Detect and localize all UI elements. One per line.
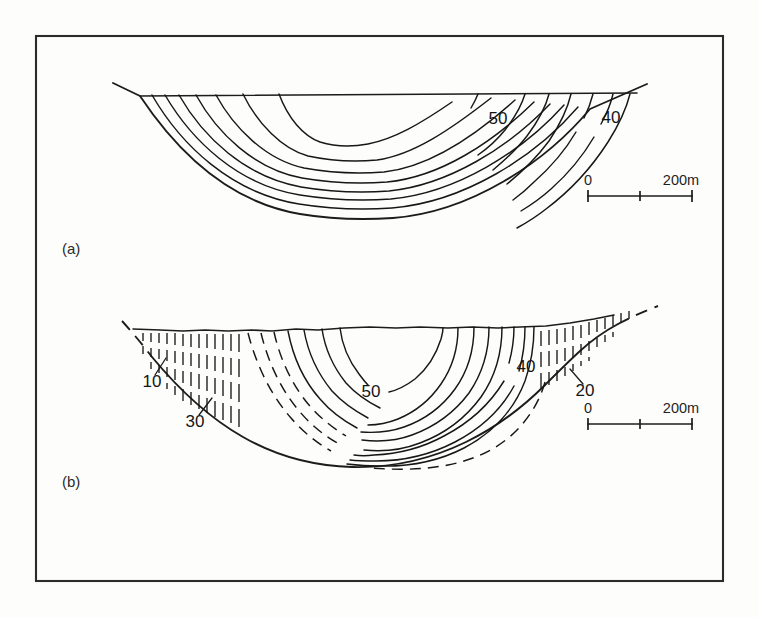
- panel-b-contour-40-top: [509, 327, 514, 363]
- panel-b-scale-label-start: 0: [584, 400, 592, 416]
- figure-canvas: 50 40 0 200m (a): [0, 0, 759, 617]
- panel-b-scale-label-end: 200m: [663, 400, 699, 416]
- panel-b-scale-bar: 0 200m: [584, 400, 699, 430]
- panel-b-contour-label-10: 10: [143, 372, 162, 391]
- panel-b-contour-label-50: 50: [362, 382, 381, 401]
- panel-a-contour-label-40: 40: [602, 108, 621, 127]
- panel-a-contour-label-50: 50: [489, 109, 508, 128]
- panel-b-contour-50-right: [389, 328, 443, 392]
- panel-b-contour-l1: [288, 331, 357, 428]
- panel-a-contour-11: [584, 94, 593, 118]
- panel-b-contour-r1: [368, 328, 458, 425]
- panel-a-contour-6: [243, 94, 491, 161]
- panel-a-contour-7b: [471, 94, 478, 108]
- panel-a-surface-line: [140, 93, 637, 96]
- panel-a-contour-7: [279, 94, 452, 146]
- figure-page: 50 40 0 200m (a): [0, 0, 759, 617]
- panel-b-left-rim-dashed: [122, 321, 152, 357]
- panel-b-contour-dashed-1: [248, 333, 331, 451]
- panel-b-ground-surface: [133, 315, 614, 331]
- panel-b-right-rim-dashed: [618, 306, 658, 324]
- panel-a-scale-label-start: 0: [584, 172, 592, 188]
- panel-a-valley-wall: [113, 83, 647, 219]
- panel-a-scale-label-end: 200m: [663, 172, 699, 188]
- panel-b-contour-label-20: 20: [576, 381, 595, 400]
- panel-b-contour-dashed-3: [274, 332, 346, 436]
- panel-a-scale-bar: 0 200m: [584, 172, 699, 202]
- panel-b-contour-label-30: 30: [186, 412, 205, 431]
- panel-b-valley-floor: [152, 357, 545, 467]
- panel-a: 50 40 0 200m (a): [62, 83, 699, 257]
- panel-b-label: (b): [62, 473, 80, 490]
- panel-b: 50 40 20 10 30 0 200m (b): [62, 306, 699, 490]
- panel-b-contour-50-left: [340, 328, 368, 385]
- panel-b-contour-label-40: 40: [517, 357, 536, 376]
- panel-a-label: (a): [62, 240, 80, 257]
